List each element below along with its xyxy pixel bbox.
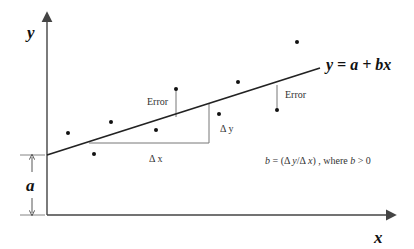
regression-line xyxy=(47,68,320,155)
formula-part: > 0 xyxy=(355,155,371,166)
formula-part: /Δ xyxy=(297,155,308,166)
intercept-label: a xyxy=(26,176,35,195)
slope-formula: b = (Δ y/Δ x) , where b > 0 xyxy=(265,155,371,167)
delta-x-label: Δ x xyxy=(149,153,162,164)
regression-diagram: y x a Δ x Δ y Error Error y = a + bx b =… xyxy=(0,0,414,249)
delta-y-label: Δ y xyxy=(220,123,233,134)
error-label-2: Error xyxy=(285,89,307,100)
y-axis-label: y xyxy=(25,23,35,42)
data-point xyxy=(174,87,178,91)
formula-part: = (Δ xyxy=(270,155,292,167)
data-point xyxy=(275,108,279,112)
data-point xyxy=(154,128,158,132)
data-point xyxy=(66,131,70,135)
data-point xyxy=(217,112,221,116)
x-axis-label: x xyxy=(373,228,383,247)
regression-equation: y = a + bx xyxy=(324,56,391,74)
data-point xyxy=(92,152,96,156)
data-point xyxy=(236,80,240,84)
data-point xyxy=(109,120,113,124)
error-label-1: Error xyxy=(147,96,169,107)
data-point xyxy=(295,40,299,44)
formula-part: ) , where xyxy=(312,155,350,167)
